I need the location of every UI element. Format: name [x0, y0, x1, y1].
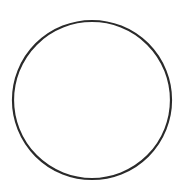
diagram-canvas	[0, 0, 174, 181]
circle-shape	[13, 21, 171, 179]
